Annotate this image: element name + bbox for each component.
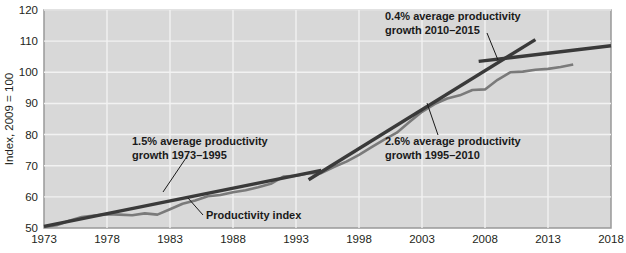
x-tick-label: 1983 xyxy=(157,233,183,245)
series-label-productivity-index: Productivity index xyxy=(206,209,302,221)
x-tick-label: 2018 xyxy=(598,233,624,245)
y-tick-label: 60 xyxy=(25,191,38,203)
y-tick-label: 70 xyxy=(25,160,38,172)
x-tick-label: 1973 xyxy=(31,233,57,245)
x-tick-label: 2003 xyxy=(409,233,435,245)
productivity-index-chart: 1201101009080706050 19731978198319881993… xyxy=(0,0,626,253)
y-axis-tick-labels: 1201101009080706050 xyxy=(19,4,38,234)
y-tick-label: 90 xyxy=(25,97,38,109)
x-tick-label: 1988 xyxy=(220,233,246,245)
y-tick-label: 80 xyxy=(25,129,38,141)
y-tick-label: 110 xyxy=(20,35,38,47)
y-tick-label: 100 xyxy=(19,66,38,78)
x-axis-tick-labels: 1973197819831988199319982003200820132018 xyxy=(31,233,624,245)
y-axis-title: Index, 2009 = 100 xyxy=(3,73,15,165)
y-tick-label: 120 xyxy=(19,4,38,16)
chart-canvas: 1201101009080706050 19731978198319881993… xyxy=(0,0,626,253)
x-tick-label: 1998 xyxy=(346,233,372,245)
plot-area-background xyxy=(44,10,611,228)
x-tick-label: 1978 xyxy=(94,233,120,245)
x-tick-label: 1993 xyxy=(283,233,309,245)
x-tick-label: 2008 xyxy=(472,233,498,245)
x-tick-label: 2013 xyxy=(535,233,561,245)
